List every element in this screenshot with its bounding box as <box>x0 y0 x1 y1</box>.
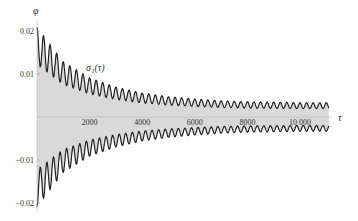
y-ticks: 0.020.01−0.01−0.02 <box>15 27 40 208</box>
y-tick-label: −0.01 <box>15 156 34 165</box>
y-tick-label: −0.02 <box>15 199 34 208</box>
x-tick-label: 6000 <box>187 118 203 127</box>
x-tick-label: 8000 <box>239 118 255 127</box>
y-tick-label: 0.02 <box>20 27 34 36</box>
y-tick-label: 0.01 <box>20 70 34 79</box>
x-tick-label: 2000 <box>82 118 98 127</box>
curve-label: σ₁(τ) <box>86 62 105 74</box>
x-axis-label: τ <box>338 112 342 123</box>
x-tick-label: 4000 <box>134 118 150 127</box>
y-axis-label: φ <box>33 5 39 16</box>
chart: 200040006000800010 000 0.020.01−0.01−0.0… <box>0 0 358 221</box>
x-tick-label: 10 000 <box>289 118 311 127</box>
